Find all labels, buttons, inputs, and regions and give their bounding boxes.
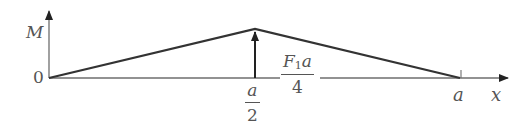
- moment-diagram: [0, 0, 530, 134]
- fraction-bar: [245, 102, 260, 103]
- x-tick-half-a-label: a 2: [245, 82, 260, 124]
- peak-denominator: 4: [290, 79, 305, 96]
- peak-numerator: F1a: [281, 53, 314, 71]
- half-a-numerator: a: [245, 82, 259, 99]
- y-axis-label: M: [26, 24, 43, 41]
- fraction-bar: [281, 74, 314, 75]
- x-axis-label: x: [491, 86, 501, 104]
- half-a-denominator: 2: [245, 107, 260, 124]
- x-tick-a-label: a: [453, 86, 464, 104]
- origin-label: 0: [33, 69, 44, 86]
- peak-moment-label: F1a 4: [281, 53, 314, 96]
